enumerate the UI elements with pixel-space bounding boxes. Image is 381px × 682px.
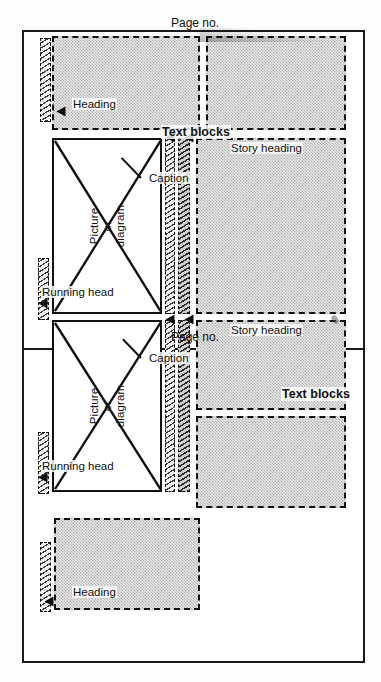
callout-caption: Caption [148,172,190,184]
heading-arrow-icon [57,107,66,117]
callout-caption: Caption [148,352,190,364]
callout-running-head: Running head [41,286,115,298]
page-no-label: Page no. [171,16,219,30]
callout-text-blocks: Text blocks [281,387,351,401]
running-head-arrow-icon [39,473,48,483]
caption-leader-line [121,157,142,179]
callout-heading: Heading [72,586,117,598]
figure-frame: Picture or diagram Running head [22,30,365,663]
callout-running-head: Running head [41,460,115,472]
page-panel-right: Picture or diagram Heading Running head … [24,349,363,663]
story-heading-arrow-icon [185,315,194,325]
running-head-arrow-icon [39,299,48,309]
page-panel-left: Picture or diagram Running head [24,32,363,349]
page-canvas-left: Picture or diagram Running head [24,32,354,328]
heading-arrow-icon [45,597,54,607]
callout-text-blocks: Text blocks [161,125,231,139]
callout-story-heading: Story heading [230,324,303,336]
caption-arrow-icon [166,315,175,325]
page-no-label: Page no. [171,330,219,344]
page-canvas-right: Picture or diagram Heading Running head … [24,349,354,642]
callout-heading: Heading [72,98,117,110]
callout-story-heading: Story heading [230,142,303,154]
